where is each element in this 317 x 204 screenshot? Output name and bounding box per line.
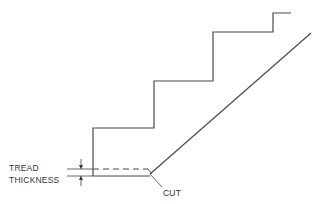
cut-leader-line: [150, 174, 162, 187]
tread-label-line2: THICKNESS: [9, 175, 60, 185]
dimension-arrow-up-icon: [79, 176, 83, 186]
stringer-underside: [150, 33, 311, 174]
tread-label-line1: TREAD: [9, 163, 39, 173]
stair-stringer-diagram: TREAD THICKNESS CUT: [0, 0, 317, 204]
dimension-arrow-down-icon: [79, 159, 83, 169]
stringer-steps: [93, 13, 291, 176]
cut-label: CUT: [163, 188, 181, 198]
